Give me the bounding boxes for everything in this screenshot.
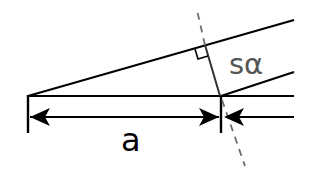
dashed-extension-top xyxy=(197,10,205,45)
diagram-canvas xyxy=(0,0,311,171)
projection-label-s-alpha: sα xyxy=(229,50,263,79)
perpendicular-segment xyxy=(205,45,220,96)
geometry-diagram: a sα xyxy=(0,0,311,171)
distance-label-a: a xyxy=(121,124,141,156)
